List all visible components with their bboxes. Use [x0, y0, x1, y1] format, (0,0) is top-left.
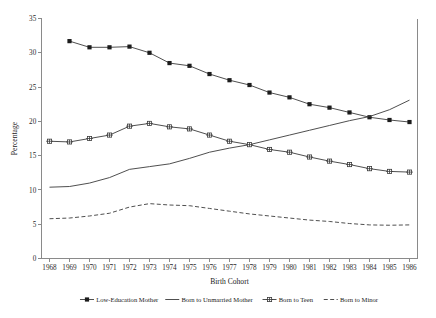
- data-point-marker: [387, 118, 391, 122]
- legend-item-born-to-teen: Born to Teen: [263, 296, 314, 303]
- y-axis-title: Percentage: [10, 121, 19, 155]
- x-axis-title: Birth Cohort: [210, 277, 249, 286]
- y-tick-label: 10: [29, 187, 37, 195]
- legend-label: Low-Education Mother: [96, 296, 159, 303]
- chart-canvas: 0510152025303519681969197019711972197319…: [0, 0, 436, 318]
- x-tick-label: 1985: [382, 264, 397, 272]
- legend-label: Born to Unmarried Mother: [181, 296, 253, 303]
- data-point-marker: [187, 64, 191, 68]
- x-tick-label: 1973: [142, 264, 157, 272]
- legend-item-born-to-minor: Born to Minor: [324, 296, 379, 303]
- series-path: [50, 204, 410, 226]
- x-tick-label: 1986: [402, 264, 417, 272]
- legend-item-born-to-unmarried-mother: Born to Unmarried Mother: [165, 296, 253, 303]
- x-tick-label: 1978: [242, 264, 257, 272]
- x-tick-label: 1975: [182, 264, 197, 272]
- line-chart: 0510152025303519681969197019711972197319…: [0, 0, 436, 318]
- series-path: [70, 41, 410, 122]
- y-tick-label: 5: [33, 221, 37, 229]
- x-tick-label: 1982: [322, 264, 337, 272]
- data-point-marker: [287, 95, 291, 99]
- data-point-marker: [127, 45, 131, 49]
- y-tick-label: 20: [29, 118, 37, 126]
- data-point-marker: [147, 51, 151, 55]
- y-tick-label: 25: [29, 84, 37, 92]
- x-tick-label: 1980: [282, 264, 297, 272]
- data-point-marker: [87, 45, 91, 49]
- x-tick-label: 1972: [122, 264, 137, 272]
- data-point-marker: [307, 102, 311, 106]
- y-tick-label: 0: [33, 255, 37, 263]
- data-point-marker: [107, 45, 111, 49]
- plot-frame: [42, 19, 418, 259]
- x-tick-label: 1976: [202, 264, 217, 272]
- data-point-marker: [407, 120, 411, 124]
- data-point-marker: [327, 106, 331, 110]
- data-point-marker: [67, 39, 71, 43]
- y-tick-label: 15: [29, 152, 37, 160]
- chart-legend: Low-Education MotherBorn to Unmarried Mo…: [80, 296, 379, 303]
- x-tick-label: 1968: [42, 264, 57, 272]
- data-point-marker: [267, 90, 271, 94]
- x-tick-label: 1970: [82, 264, 97, 272]
- data-point-marker: [207, 72, 211, 76]
- x-tick-label: 1984: [362, 264, 377, 272]
- series-layer: [46, 39, 413, 225]
- x-tick-label: 1971: [102, 264, 117, 272]
- x-tick-label: 1969: [62, 264, 77, 272]
- legend-item-low-education-mother: Low-Education Mother: [80, 296, 159, 303]
- legend-label: Born to Minor: [340, 296, 379, 303]
- x-tick-label: 1974: [162, 264, 177, 272]
- y-tick-label: 30: [29, 49, 37, 57]
- data-point-marker: [247, 83, 251, 87]
- legend-label: Born to Teen: [279, 296, 314, 303]
- data-point-marker: [347, 110, 351, 114]
- axis-labels: 0510152025303519681969197019711972197319…: [10, 15, 418, 286]
- y-tick-label: 35: [29, 15, 37, 23]
- data-point-marker: [85, 297, 89, 301]
- data-point-marker: [227, 78, 231, 82]
- x-tick-label: 1981: [302, 264, 317, 272]
- series-low-education-mother: [67, 39, 411, 124]
- data-point-marker: [167, 61, 171, 65]
- series-born-to-minor: [50, 204, 410, 226]
- x-tick-label: 1979: [262, 264, 277, 272]
- x-tick-label: 1983: [342, 264, 357, 272]
- x-tick-label: 1977: [222, 264, 237, 272]
